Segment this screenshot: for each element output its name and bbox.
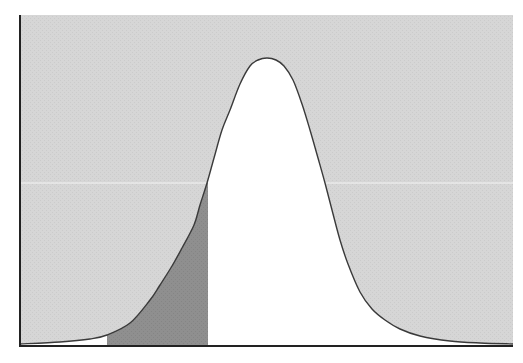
density-chart	[0, 0, 523, 363]
